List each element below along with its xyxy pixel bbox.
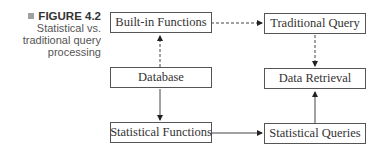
- node-builtin-functions: Built-in Functions: [110, 12, 212, 33]
- node-statistical-queries: Statistical Queries: [264, 123, 366, 144]
- node-data-retrieval: Data Retrieval: [264, 68, 366, 89]
- node-traditional-query: Traditional Query: [264, 13, 366, 34]
- node-database: Database: [110, 67, 212, 88]
- node-statistical-functions: Statistical Functions: [110, 122, 212, 143]
